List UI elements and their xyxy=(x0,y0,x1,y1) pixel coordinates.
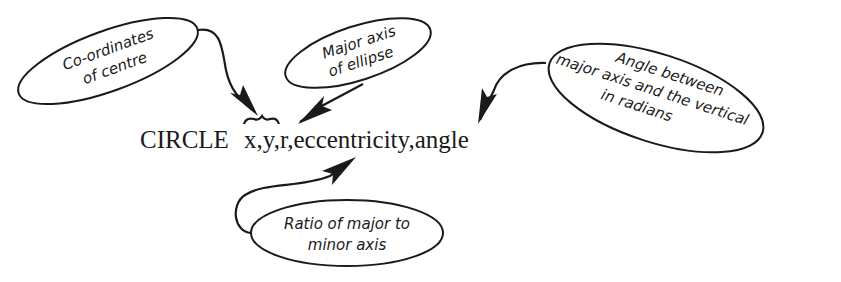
callout-angle: Angle between major axis and the vertica… xyxy=(478,22,776,175)
xy-brace xyxy=(244,116,279,124)
arrowhead-icon xyxy=(298,96,332,124)
callout-ratio-ellipse xyxy=(251,200,443,266)
callout-ratio-line-1: Ratio of major to xyxy=(284,215,410,233)
arrowhead-icon xyxy=(322,157,356,185)
callout-ratio-line-2: minor axis xyxy=(308,236,387,254)
callout-angle-arrow xyxy=(480,63,546,120)
callout-ratio: Ratio of major to minor axis xyxy=(236,157,443,266)
callout-centre: Co-ordinates of centre xyxy=(8,0,258,121)
statement-arguments: x,y,r,eccentricity,angle xyxy=(244,126,469,153)
callout-major-axis: Major axis of ellipse xyxy=(277,4,438,124)
statement-keyword: CIRCLE xyxy=(140,126,229,153)
circle-syntax-diagram: CIRCLE x,y,r,eccentricity,angle Co-ordin… xyxy=(0,0,841,282)
arrowhead-icon xyxy=(478,88,497,124)
